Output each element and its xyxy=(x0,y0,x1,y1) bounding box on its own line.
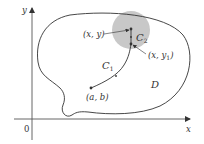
label-x-y1: (x, y1) xyxy=(148,50,173,61)
region-label: D xyxy=(150,79,159,90)
point-x-y1 xyxy=(130,43,133,46)
c2-midpoint-dot xyxy=(130,36,132,38)
line-integral-diagram: y x 0 D (x, y) (a, b) (x, y1) C1 C2 xyxy=(0,0,204,144)
point-x-y xyxy=(130,28,133,31)
x-axis-label: x xyxy=(186,124,191,134)
c1-midpoint-dot xyxy=(115,75,117,77)
label-a-b: (a, b) xyxy=(86,92,109,102)
point-a-b xyxy=(90,87,93,90)
origin-label: 0 xyxy=(24,124,29,134)
label-c1: C1 xyxy=(102,60,113,72)
y-axis-label: y xyxy=(21,5,27,15)
label-x-y: (x, y) xyxy=(83,29,105,39)
